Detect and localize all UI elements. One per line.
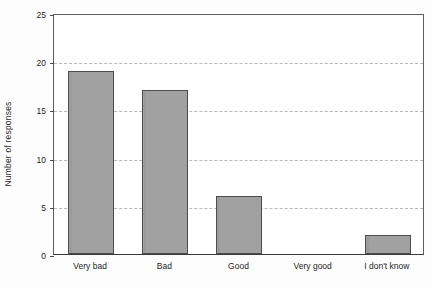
y-axis-tick bbox=[50, 63, 54, 64]
bar-slot bbox=[54, 15, 128, 254]
x-axis-tick-label: I don't know bbox=[364, 261, 409, 271]
y-axis-tick bbox=[50, 111, 54, 112]
gridline bbox=[54, 160, 423, 161]
bar bbox=[68, 71, 114, 254]
y-axis-tick bbox=[50, 208, 54, 209]
gridline bbox=[54, 111, 423, 112]
bar-slot bbox=[351, 15, 425, 254]
bar-slot bbox=[128, 15, 202, 254]
y-axis-tick-label: 0 bbox=[41, 251, 46, 261]
bar bbox=[365, 235, 411, 254]
x-axis-tick-label: Bad bbox=[157, 261, 172, 271]
bar-slot bbox=[202, 15, 276, 254]
y-axis-tick-label: 25 bbox=[37, 10, 46, 20]
y-axis-tick-label: 20 bbox=[37, 58, 46, 68]
y-axis-tick bbox=[50, 256, 54, 257]
bar bbox=[216, 196, 262, 254]
y-axis-tick bbox=[50, 15, 54, 16]
gridline bbox=[54, 63, 423, 64]
x-axis-tick-label: Very bad bbox=[73, 261, 107, 271]
y-axis-tick-label: 10 bbox=[37, 155, 46, 165]
y-axis-title: Number of responses bbox=[0, 0, 16, 288]
y-axis-tick-label: 5 bbox=[41, 203, 46, 213]
y-axis-tick bbox=[50, 160, 54, 161]
y-axis-tick-label: 15 bbox=[37, 106, 46, 116]
x-axis-tick-label: Very good bbox=[294, 261, 332, 271]
bar bbox=[142, 90, 188, 254]
bar-slot bbox=[277, 15, 351, 254]
plot-area: 0510152025 bbox=[53, 14, 424, 255]
gridline bbox=[54, 208, 423, 209]
bar-chart-figure: Number of responses 0510152025 Very badB… bbox=[0, 0, 432, 288]
x-axis-tick-label: Good bbox=[228, 261, 249, 271]
